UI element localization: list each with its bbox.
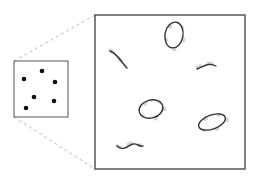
dot — [40, 69, 45, 74]
dot — [52, 99, 57, 104]
connector-line-bottom — [14, 117, 95, 169]
dot — [32, 95, 37, 100]
dot — [53, 80, 58, 85]
connector-line-top — [14, 15, 95, 61]
zoom-diagram — [0, 0, 256, 176]
dot — [24, 106, 29, 111]
dot — [22, 77, 27, 82]
